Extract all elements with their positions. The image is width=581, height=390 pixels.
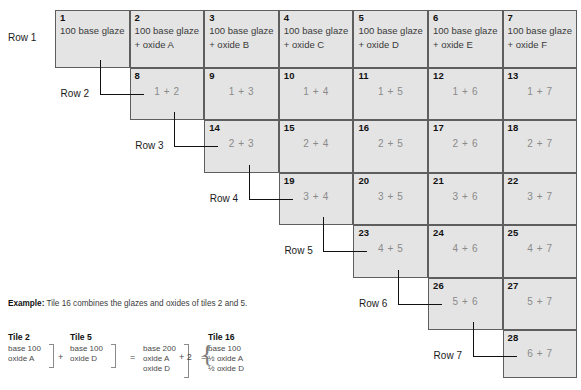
leader-line-horizontal-row-5 — [323, 251, 367, 252]
formula-line: base 100 — [70, 344, 103, 354]
formula-line: base 200 — [143, 344, 176, 354]
tile-combination: 2 + 5 — [354, 138, 427, 149]
operator-equals-2: = — [201, 352, 206, 362]
leader-line-vertical-row-7 — [473, 322, 474, 356]
tile-cell-6[interactable]: 6100 base glaze+ oxide E — [428, 10, 503, 68]
tile-recipe-line-2: + oxide E — [433, 39, 473, 50]
tile-combination: 5 + 6 — [429, 296, 502, 307]
formula-line: oxide A — [143, 354, 176, 364]
formula-line: base 100 — [8, 344, 41, 354]
tile-cell-13[interactable]: 131 + 7 — [503, 68, 578, 120]
leader-line-horizontal-row-3 — [174, 146, 218, 147]
tile-recipe-line-1: 100 base glaze — [60, 25, 124, 36]
tile-cell-21[interactable]: 213 + 6 — [428, 173, 503, 225]
tile-combination: 3 + 4 — [280, 191, 353, 202]
tile-cell-3[interactable]: 3100 base glaze+ oxide B — [204, 10, 279, 68]
formula-line: oxide D — [70, 354, 103, 364]
tile-combination: 3 + 6 — [429, 191, 502, 202]
tile-recipe-line-2: + oxide B — [209, 39, 249, 50]
operator-equals-1: = — [130, 352, 135, 362]
leader-line-vertical-row-4 — [249, 165, 250, 199]
tile-cell-20[interactable]: 203 + 5 — [353, 173, 428, 225]
tile-cell-15[interactable]: 152 + 4 — [279, 120, 354, 172]
tile-cell-12[interactable]: 121 + 6 — [428, 68, 503, 120]
row-label-3: Row 3 — [135, 140, 163, 151]
tile-cell-24[interactable]: 244 + 6 — [428, 225, 503, 277]
tile-recipe-line-1: 100 base glaze — [135, 25, 199, 36]
diagram-canvas: 1100 base glaze2100 base glaze+ oxide A3… — [0, 0, 581, 390]
tile-cell-28[interactable]: 286 + 7 — [503, 330, 578, 378]
tile-number: 18 — [508, 122, 519, 133]
leader-line-vertical-row-2 — [100, 60, 101, 94]
tile-cell-25[interactable]: 254 + 7 — [503, 225, 578, 277]
row-label-6: Row 6 — [359, 298, 387, 309]
tile-recipe-line-1: 100 base glaze — [508, 25, 572, 36]
tile-combination: 1 + 2 — [131, 86, 204, 97]
example-caption: Example: Tile 16 combines the glazes and… — [8, 299, 247, 308]
tile-number: 8 — [135, 70, 140, 81]
tile-combination: 1 + 7 — [504, 86, 577, 97]
leader-line-horizontal-row-6 — [398, 304, 442, 305]
tile-combination: 1 + 4 — [280, 86, 353, 97]
tile-number: 17 — [433, 122, 444, 133]
tile-recipe-line-1: 100 base glaze — [358, 25, 422, 36]
tile-recipe-line-2: + oxide C — [284, 39, 324, 50]
tile-combination: 4 + 5 — [354, 243, 427, 254]
tile-number: 3 — [209, 12, 214, 23]
tile-number: 26 — [433, 280, 444, 291]
tile-number: 12 — [433, 70, 444, 81]
formula-group-lines: base 200oxide Aoxide D — [143, 344, 176, 374]
tile-number: 1 — [60, 12, 65, 23]
tile-cell-17[interactable]: 172 + 6 — [428, 120, 503, 172]
tile-combination: 1 + 6 — [429, 86, 502, 97]
row-label-4: Row 4 — [210, 193, 238, 204]
tile-combination: 4 + 6 — [429, 243, 502, 254]
tile-number: 21 — [433, 175, 444, 186]
tile-recipe-line-2: + oxide A — [135, 39, 174, 50]
leader-line-horizontal-row-4 — [249, 199, 293, 200]
operator-plus-1: + — [58, 352, 63, 362]
tile-combination: 5 + 7 — [504, 296, 577, 307]
tile-cell-1[interactable]: 1100 base glaze — [55, 10, 130, 68]
tile-cell-2[interactable]: 2100 base glaze+ oxide A — [130, 10, 205, 68]
tile-cell-5[interactable]: 5100 base glaze+ oxide D — [353, 10, 428, 68]
tile-cell-7[interactable]: 7100 base glaze+ oxide F — [503, 10, 578, 68]
tile-cell-18[interactable]: 182 + 7 — [503, 120, 578, 172]
row-label-1: Row 1 — [8, 32, 36, 43]
leader-line-horizontal-row-2 — [100, 94, 144, 95]
tile-number: 19 — [284, 175, 295, 186]
tile-combination: 3 + 7 — [504, 191, 577, 202]
leader-line-vertical-row-6 — [398, 270, 399, 304]
example-text: Tile 16 combines the glazes and oxides o… — [44, 299, 247, 308]
tile-cell-4[interactable]: 4100 base glaze+ oxide C — [279, 10, 354, 68]
formula-group-title: Tile 5 — [70, 332, 92, 342]
tile-combination: 2 + 6 — [429, 138, 502, 149]
tile-number: 2 — [135, 12, 140, 23]
tile-cell-9[interactable]: 91 + 3 — [204, 68, 279, 120]
tile-combination: 1 + 5 — [354, 86, 427, 97]
tile-recipe-line-1: 100 base glaze — [284, 25, 348, 36]
leader-line-vertical-row-5 — [323, 217, 324, 251]
tile-number: 11 — [358, 70, 368, 81]
tile-cell-22[interactable]: 223 + 7 — [503, 173, 578, 225]
tile-number: 27 — [508, 280, 519, 291]
formula-line: oxide D — [143, 364, 176, 374]
leader-line-horizontal-row-7 — [473, 356, 517, 357]
tile-number: 23 — [358, 227, 369, 238]
tile-combination: 1 + 3 — [205, 86, 278, 97]
tile-number: 16 — [358, 122, 369, 133]
tile-combination: 4 + 7 — [504, 243, 577, 254]
tile-cell-16[interactable]: 162 + 5 — [353, 120, 428, 172]
tile-recipe-line-1: 100 base glaze — [433, 25, 497, 36]
tile-number: 6 — [433, 12, 438, 23]
formula-group-lines: base 100oxide A — [8, 344, 41, 364]
row-label-5: Row 5 — [284, 245, 312, 256]
tile-combination: 2 + 7 — [504, 138, 577, 149]
tile-cell-10[interactable]: 101 + 4 — [279, 68, 354, 120]
tile-recipe-line-2: + oxide D — [358, 39, 398, 50]
formula-line: oxide A — [8, 354, 41, 364]
tile-recipe-line-1: 100 base glaze — [209, 25, 273, 36]
tile-cell-11[interactable]: 111 + 5 — [353, 68, 428, 120]
tile-cell-27[interactable]: 275 + 7 — [503, 278, 578, 330]
formula-group-lines: base 100oxide D — [70, 344, 103, 364]
